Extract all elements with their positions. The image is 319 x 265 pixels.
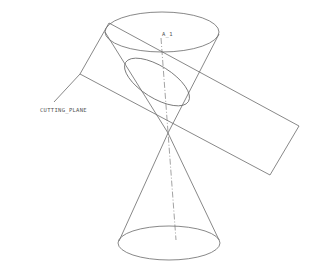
cone-axis [161,38,176,240]
lower-cone-rim [118,226,220,260]
leader-line [54,74,80,102]
lower-cone-left-edge [119,133,168,241]
cad-drawing: CUTTING_PLANE A_1 [0,0,319,265]
section-ellipse [117,49,197,115]
cutting-plane-label: CUTTING_PLANE [40,107,87,114]
axis-label: A_1 [162,31,173,38]
upper-cone-left-edge [105,32,168,133]
lower-cone-right-edge [168,133,219,240]
